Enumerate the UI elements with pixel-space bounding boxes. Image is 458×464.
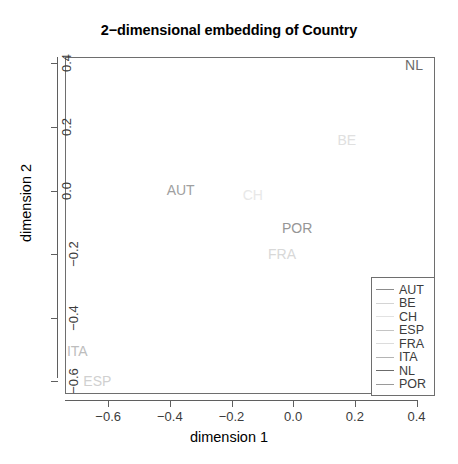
legend-item-label: CH <box>399 311 417 324</box>
y-tick-label-text: −0.4 <box>66 305 81 331</box>
y-tick-label: 0.0 <box>59 191 74 209</box>
x-tick-mark <box>108 400 109 407</box>
chart-title: 2−dimensional embedding of Country <box>0 22 458 38</box>
y-tick-label: −0.2 <box>66 254 81 280</box>
legend-item-label: BE <box>399 297 416 310</box>
y-tick-label: 0.2 <box>59 127 74 145</box>
data-point-ch: CH <box>243 187 263 203</box>
y-tick-label-text: 0.0 <box>59 181 74 199</box>
x-tick-mark <box>355 400 356 407</box>
y-axis-line <box>57 57 58 378</box>
x-axis-line <box>65 400 418 401</box>
data-point-fra: FRA <box>268 246 296 262</box>
y-tick-label-text: 0.2 <box>59 118 74 136</box>
data-point-ita: ITA <box>67 343 88 359</box>
legend-line-icon <box>376 330 394 331</box>
y-tick-mark <box>51 191 58 192</box>
data-point-por: POR <box>282 220 312 236</box>
legend-item-label: POR <box>399 378 426 391</box>
legend-line-icon <box>376 316 394 317</box>
legend-item-por[interactable]: POR <box>372 378 434 392</box>
legend-item-label: ESP <box>399 324 424 337</box>
legend-item-esp[interactable]: ESP <box>372 324 434 338</box>
legend-item-label: NL <box>399 365 415 378</box>
y-tick-mark <box>51 381 58 382</box>
chart-screenshot: 2−dimensional embedding of Country NLBEA… <box>0 0 458 464</box>
y-tick-label-text: −0.2 <box>66 241 81 267</box>
legend-item-aut[interactable]: AUT <box>372 283 434 297</box>
y-tick-label-text: 0.4 <box>59 54 74 72</box>
y-tick-mark <box>51 63 58 64</box>
y-axis-label: dimension 2 <box>18 103 34 303</box>
legend-item-label: ITA <box>399 351 418 364</box>
legend-line-icon <box>376 289 394 290</box>
data-point-be: BE <box>337 132 356 148</box>
data-point-aut: AUT <box>167 182 195 198</box>
legend-item-ita[interactable]: ITA <box>372 351 434 365</box>
x-tick-label: 0.2 <box>346 409 364 424</box>
x-tick-label: −0.4 <box>157 409 183 424</box>
legend-line-icon <box>376 357 394 358</box>
y-tick-mark <box>51 254 58 255</box>
legend-line-icon <box>376 370 394 371</box>
x-tick-mark <box>417 400 418 407</box>
legend-item-label: FRA <box>399 338 424 351</box>
x-tick-label: 0.0 <box>284 409 302 424</box>
data-point-esp: ESP <box>83 373 111 389</box>
legend-line-icon <box>376 343 394 344</box>
y-tick-label-text: −0.6 <box>66 368 81 394</box>
x-tick-mark <box>170 400 171 407</box>
legend-item-label: AUT <box>399 284 424 297</box>
legend-line-icon <box>376 384 394 385</box>
y-tick-label: 0.4 <box>59 63 74 81</box>
x-axis-label: dimension 1 <box>0 429 458 445</box>
y-tick-label: −0.6 <box>66 381 81 407</box>
x-tick-mark <box>293 400 294 407</box>
legend-item-ch[interactable]: CH <box>372 310 434 324</box>
legend-line-icon <box>376 303 394 304</box>
x-tick-label: 0.4 <box>407 409 425 424</box>
legend-item-fra[interactable]: FRA <box>372 337 434 351</box>
legend: AUTBECHESPFRAITANLPOR <box>371 277 435 396</box>
y-tick-mark <box>51 318 58 319</box>
y-tick-label: −0.4 <box>66 318 81 344</box>
x-tick-label: −0.6 <box>95 409 121 424</box>
x-tick-mark <box>232 400 233 407</box>
legend-item-be[interactable]: BE <box>372 297 434 311</box>
legend-item-nl[interactable]: NL <box>372 364 434 378</box>
x-tick-label: −0.2 <box>219 409 245 424</box>
data-point-nl: NL <box>405 57 423 73</box>
y-tick-mark <box>51 127 58 128</box>
